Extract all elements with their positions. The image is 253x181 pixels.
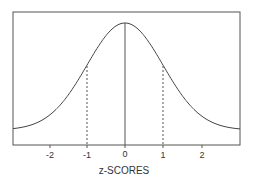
tick-label: -1 [83,150,91,160]
tick-label: 2 [199,150,204,160]
normal-curve [13,23,240,129]
x-axis-label: z-SCORES [99,165,150,176]
normal-curve-chart: -2 -1 0 1 2 z-SCORES [0,0,253,181]
tick-label: 1 [160,150,165,160]
tick-label: 0 [122,149,127,159]
tick-label: -2 [46,150,54,160]
plot-frame [13,12,240,145]
